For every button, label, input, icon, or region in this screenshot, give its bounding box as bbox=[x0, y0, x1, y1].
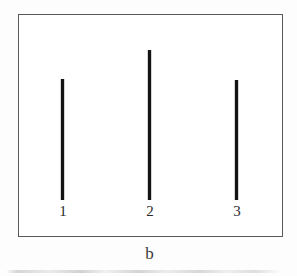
bar-1 bbox=[61, 79, 64, 200]
bars-layer bbox=[0, 0, 297, 276]
bar-2 bbox=[148, 50, 151, 200]
scan-artifact-band bbox=[6, 270, 282, 273]
figure-root: 1 2 3 b bbox=[0, 0, 297, 276]
bar-3 bbox=[235, 80, 238, 200]
tick-label-row: 1 2 3 bbox=[0, 201, 297, 223]
tick-label-1: 1 bbox=[48, 201, 78, 221]
tick-label-2: 2 bbox=[135, 201, 165, 221]
figure-caption-text: b bbox=[143, 243, 154, 265]
tick-label-3: 3 bbox=[222, 201, 252, 221]
figure-caption: b bbox=[0, 243, 297, 265]
